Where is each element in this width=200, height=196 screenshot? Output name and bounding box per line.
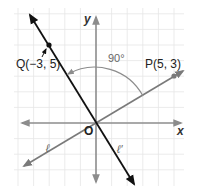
line-l-label: ℓ (45, 142, 50, 154)
line-l-prime (30, 15, 134, 184)
point-p-label: P(5, 3) (145, 57, 181, 71)
q-pointer (42, 49, 46, 57)
line-l-prime-label: ℓ′ (116, 143, 124, 155)
point-q (46, 42, 51, 47)
y-axis-label: y (83, 12, 92, 26)
x-axis-label: x (176, 124, 185, 138)
origin-label: O (84, 124, 93, 138)
grid (14, 8, 184, 186)
coordinate-plane-diagram: y x O Q(−3, 5) P(5, 3) 90° ℓ ℓ′ (0, 0, 200, 196)
point-p (171, 73, 176, 78)
angle-label: 90° (108, 52, 125, 64)
point-q-label: Q(−3, 5) (16, 57, 60, 71)
